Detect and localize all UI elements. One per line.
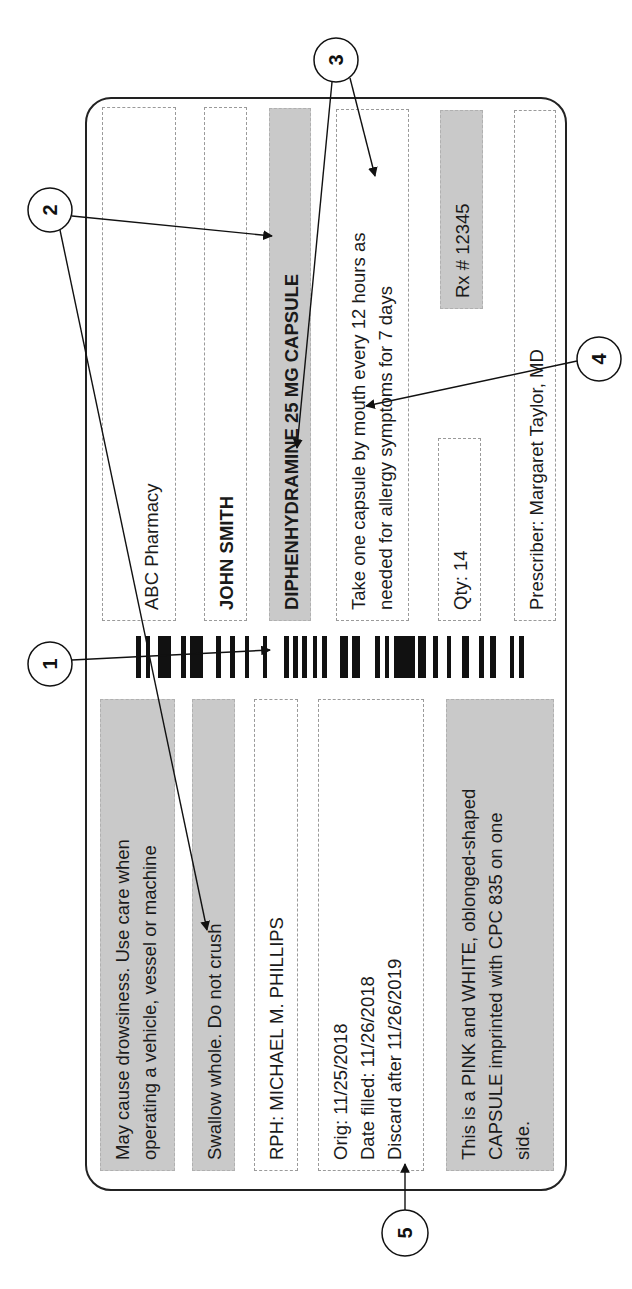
callout-2-arrow-a — [72, 216, 272, 236]
callout-4-number: 4 — [588, 353, 610, 365]
callout-2-number: 2 — [39, 204, 61, 215]
callout-1-arrow — [72, 650, 270, 660]
callout-1-number: 1 — [39, 658, 61, 669]
callout-overlay: 1 2 3 4 5 — [0, 0, 632, 1289]
callout-3-number: 3 — [325, 54, 347, 65]
callout-2-arrow-b — [60, 230, 207, 930]
callout-5-number: 5 — [394, 1227, 416, 1238]
callout-3-arrow-b — [350, 78, 375, 176]
callout-4-arrow — [366, 361, 577, 406]
callout-3-arrow-a — [297, 82, 332, 448]
